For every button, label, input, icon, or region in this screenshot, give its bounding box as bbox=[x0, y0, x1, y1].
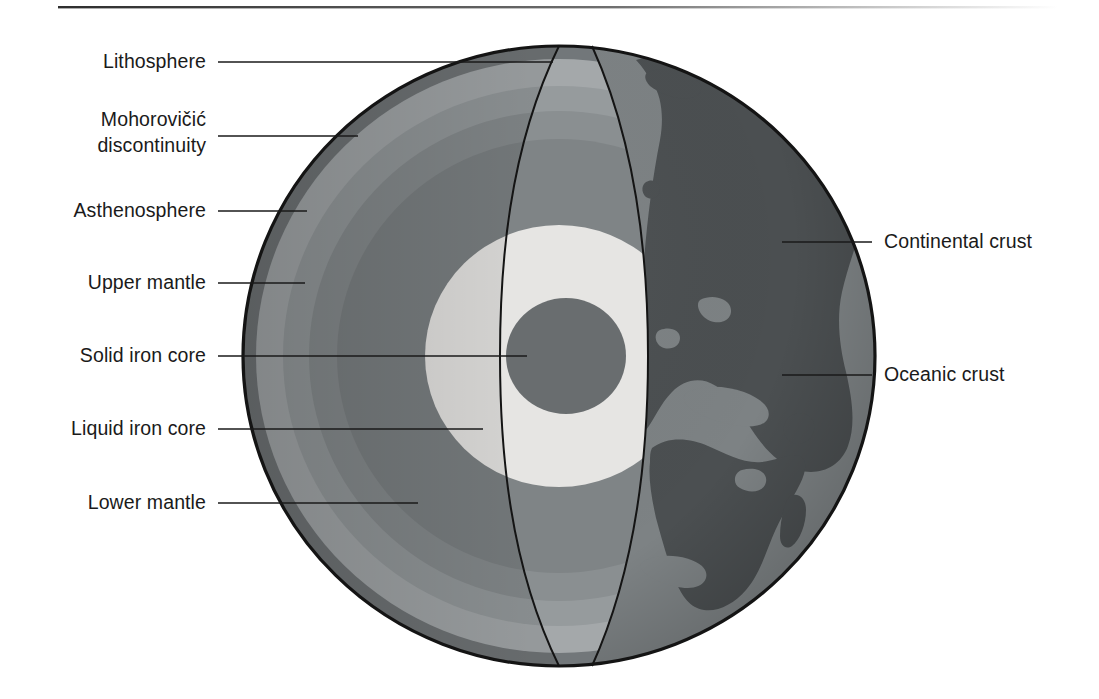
label-moho-line2: discontinuity bbox=[97, 134, 206, 156]
top-rule bbox=[58, 6, 1058, 8]
label-continental-crust: Continental crust bbox=[884, 230, 1033, 252]
label-asthenosphere: Asthenosphere bbox=[74, 199, 206, 221]
label-oceanic-crust: Oceanic crust bbox=[884, 363, 1005, 385]
diagram-canvas: Lithosphere Mohorovičić discontinuity As… bbox=[0, 0, 1099, 699]
label-solid-iron-core: Solid iron core bbox=[80, 344, 206, 366]
label-liquid-iron-core: Liquid iron core bbox=[71, 417, 206, 439]
label-moho-line1: Mohorovičić bbox=[101, 108, 206, 130]
earth-cutaway-diagram: Lithosphere Mohorovičić discontinuity As… bbox=[0, 0, 1099, 699]
label-upper-mantle: Upper mantle bbox=[88, 271, 206, 293]
label-lower-mantle: Lower mantle bbox=[88, 491, 206, 513]
label-lithosphere: Lithosphere bbox=[103, 50, 206, 72]
